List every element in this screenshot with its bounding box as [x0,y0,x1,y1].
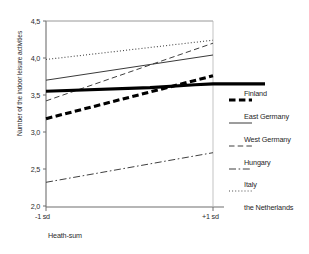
y-tick-label-3-5: 3,5 [18,91,40,100]
y-tick-label-2-5: 2,5 [18,165,40,174]
series-line-italy [46,153,213,183]
series-line-hungary [46,43,213,101]
y-tick-label-4-0: 4,0 [18,54,40,63]
x-tick-label-plus-1-sd: +1 sd [202,212,219,221]
series-line-east-germany [46,76,213,119]
y-tick-label-3-0: 3,0 [18,128,40,137]
y-tick-label-4-5: 4,5 [18,17,40,26]
chart-figure: Number of the indoor leisure activities … [0,0,309,254]
legend-label-west-germany: West Germany [244,135,291,144]
y-tick-label-2-0: 2,0 [18,202,40,211]
legend-label-the-netherlands: the Netherlands [244,203,293,212]
x-tick-marks [46,207,213,211]
legend-label-hungary: Hungary [244,158,271,167]
legend-label-finland: Finland [244,89,267,98]
series-line-the-netherlands [46,40,213,59]
x-axis-title: Heath-sum [48,231,82,240]
x-tick-label-minus-1-sd: -1 sd [35,212,50,221]
legend-label-italy: Italy [244,180,257,189]
series-line-west-germany [46,55,213,80]
legend-label-east-germany: East Germany [244,112,289,121]
